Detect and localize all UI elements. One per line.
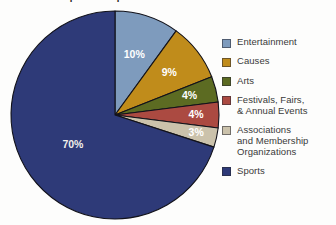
legend-item[interactable]: Associationsand MembershipOrganizations bbox=[222, 125, 334, 157]
pie-slice-value-label: 4% bbox=[182, 89, 198, 101]
pie-svg: 10%9%4%4%3%70% bbox=[8, 8, 222, 222]
legend-item[interactable]: Causes bbox=[222, 56, 334, 67]
pie-slice-value-label: 10% bbox=[124, 48, 146, 60]
legend-swatch-icon bbox=[222, 167, 231, 176]
legend-item[interactable]: Festivals, Fairs,& Annual Events bbox=[222, 95, 334, 117]
pie-chart: Sponsorship Market 10%9%4%4%3%70% Entert… bbox=[0, 0, 336, 225]
legend-item-label: Arts bbox=[237, 76, 254, 87]
legend-item-label: Associationsand MembershipOrganizations bbox=[237, 125, 308, 157]
legend-item[interactable]: Arts bbox=[222, 76, 334, 87]
legend-item-label: Causes bbox=[237, 56, 270, 67]
legend-swatch-icon bbox=[222, 96, 231, 105]
legend-swatch-icon bbox=[222, 58, 231, 67]
pie-slice-value-label: 70% bbox=[62, 138, 84, 150]
legend-swatch-icon bbox=[222, 77, 231, 86]
pie-graphic: 10%9%4%4%3%70% bbox=[8, 8, 222, 222]
pie-slice-value-label: 3% bbox=[189, 126, 205, 138]
chart-title: Sponsorship Market bbox=[0, 0, 220, 2]
pie-slice-value-label: 9% bbox=[162, 66, 178, 78]
legend-swatch-icon bbox=[222, 126, 231, 135]
legend-swatch-icon bbox=[222, 39, 231, 48]
legend-item[interactable]: Entertainment bbox=[222, 37, 334, 48]
legend: EntertainmentCausesArtsFestivals, Fairs,… bbox=[222, 37, 334, 185]
legend-item-label: Festivals, Fairs,& Annual Events bbox=[237, 95, 307, 117]
pie-slice-value-label: 4% bbox=[189, 108, 205, 120]
legend-item-label: Entertainment bbox=[237, 37, 297, 48]
legend-item-label: Sports bbox=[237, 166, 265, 177]
legend-item[interactable]: Sports bbox=[222, 166, 334, 177]
